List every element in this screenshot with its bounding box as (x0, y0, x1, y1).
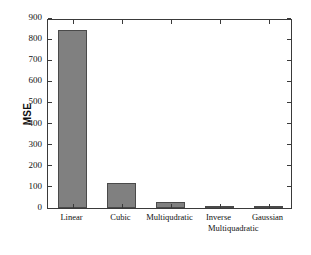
x-tick-mark-top (73, 20, 74, 24)
x-tick-mark (73, 204, 74, 208)
y-tick-label: 800 (29, 33, 43, 44)
y-tick-label: 700 (29, 54, 43, 65)
bar-slot (58, 20, 86, 208)
x-axis-labels: LinearCubicMultiqudraticInverseMultiquad… (47, 212, 292, 252)
x-tick-label-line: Gaussian (252, 212, 283, 222)
x-tick-mark-top (269, 20, 270, 24)
y-tick-label: 200 (29, 160, 43, 171)
x-tick-label-line: Linear (60, 212, 82, 222)
x-tick-mark (269, 204, 270, 208)
x-tick-label-line: Cubic (110, 212, 130, 222)
x-tick-label: Linear (47, 212, 96, 223)
y-tick-label: 0 (38, 202, 43, 213)
x-tick-label: Gaussian (243, 212, 292, 223)
x-tick-label-line: Inverse (206, 212, 231, 222)
x-tick-mark-top (220, 20, 221, 24)
y-tick-mark (48, 18, 52, 19)
x-tick-mark-top (122, 20, 123, 24)
x-tick-mark-top (171, 20, 172, 24)
plot-area: MSE 0100200300400500600700800900 (47, 19, 292, 209)
y-tick-label: 600 (29, 75, 43, 86)
bar-chart-figure: MSE 0100200300400500600700800900 LinearC… (0, 0, 311, 255)
y-tick-label: 400 (29, 118, 43, 129)
x-tick-mark (220, 204, 221, 208)
y-tick-label: 900 (29, 12, 43, 23)
bar-slot (254, 20, 282, 208)
y-tick-label: 300 (29, 139, 43, 150)
x-tick-label: InverseMultiquadratic (194, 212, 243, 233)
x-tick-label-line: Multiqudratic (146, 212, 193, 222)
x-tick-mark (171, 204, 172, 208)
bar[interactable] (58, 30, 86, 208)
y-tick-label: 100 (29, 181, 43, 192)
bar-slot (205, 20, 233, 208)
bar-series (48, 20, 291, 208)
y-tick-label: 500 (29, 96, 43, 107)
x-tick-label-line: Multiquadratic (208, 223, 257, 234)
x-tick-label: Cubic (96, 212, 145, 223)
x-tick-mark (122, 204, 123, 208)
x-tick-label: Multiqudratic (145, 212, 194, 223)
bar-slot (107, 20, 135, 208)
bar-slot (156, 20, 184, 208)
y-tick-mark-right (287, 18, 291, 19)
